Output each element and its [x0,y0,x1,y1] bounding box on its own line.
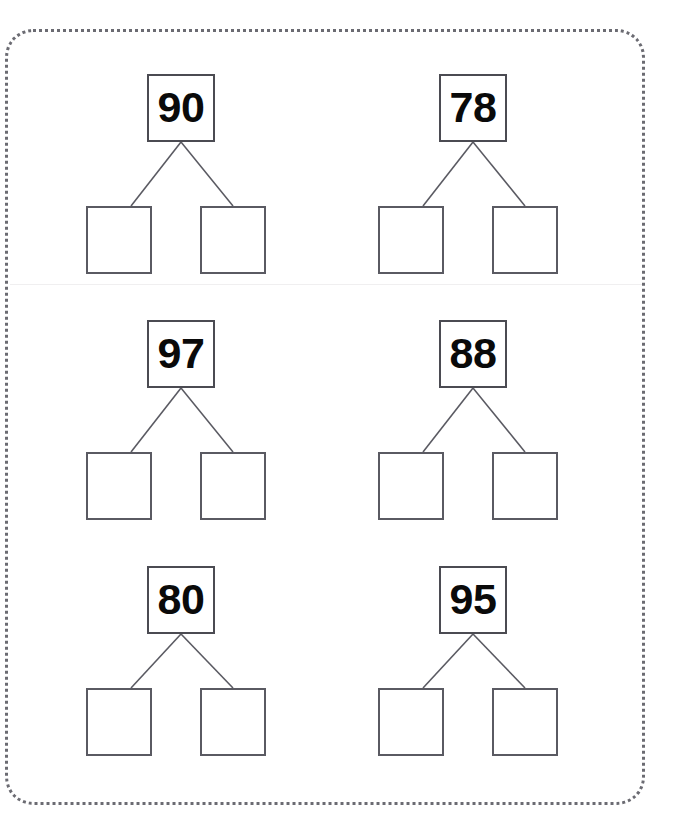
section-divider [10,284,642,285]
whole-value-1: 90 [158,86,205,129]
whole-box-2: 78 [439,74,507,142]
part-box-left-5[interactable] [86,688,152,756]
part-box-right-1[interactable] [200,206,266,274]
whole-box-6: 95 [439,566,507,634]
whole-value-5: 80 [158,578,205,621]
whole-box-5: 80 [147,566,215,634]
whole-box-1: 90 [147,74,215,142]
whole-value-6: 95 [450,578,497,621]
number-bond-worksheet: 90 78 97 88 [0,0,679,837]
part-box-left-1[interactable] [86,206,152,274]
part-box-right-5[interactable] [200,688,266,756]
whole-box-4: 88 [439,320,507,388]
whole-box-3: 97 [147,320,215,388]
part-box-left-4[interactable] [378,452,444,520]
number-bond-problem-5: 80 [86,566,276,766]
number-bond-problem-4: 88 [378,320,568,520]
whole-value-2: 78 [450,86,497,129]
number-bond-problem-6: 95 [378,566,568,766]
part-box-right-6[interactable] [492,688,558,756]
number-bond-problem-2: 78 [378,74,568,274]
number-bond-problem-1: 90 [86,74,276,274]
number-bond-problem-3: 97 [86,320,276,520]
part-box-right-3[interactable] [200,452,266,520]
part-box-left-3[interactable] [86,452,152,520]
whole-value-4: 88 [450,332,497,375]
part-box-right-4[interactable] [492,452,558,520]
part-box-left-6[interactable] [378,688,444,756]
whole-value-3: 97 [158,332,205,375]
part-box-left-2[interactable] [378,206,444,274]
part-box-right-2[interactable] [492,206,558,274]
